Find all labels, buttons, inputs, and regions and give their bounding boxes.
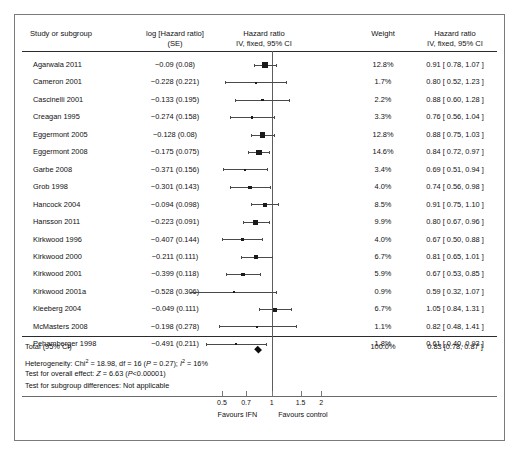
- column-header-study: Study or subgroup: [30, 29, 92, 39]
- favours-left-label: Favours IFN: [218, 410, 258, 419]
- study-weight: 12.8%: [346, 126, 420, 144]
- ci-lower-cap: [206, 343, 207, 346]
- study-weight: 0.9%: [346, 283, 420, 301]
- effect-estimate-marker: [248, 186, 251, 189]
- ci-upper-cap: [260, 273, 261, 276]
- total-weight: 100.0%: [346, 341, 420, 352]
- ci-upper-cap: [274, 134, 275, 137]
- ci-lower-cap: [251, 203, 252, 206]
- summary-diamond: [254, 346, 262, 354]
- study-weight: 8.5%: [346, 196, 420, 214]
- hazard-ratio: 0.82 [ 0.48, 1.41 ]: [410, 318, 500, 336]
- ci-lower-cap: [230, 186, 231, 189]
- study-name: Creagan 1995: [33, 108, 80, 126]
- study-name: Hansson 2011: [33, 213, 80, 231]
- study-name: Grob 1998: [33, 178, 68, 196]
- study-weight: 1.1%: [346, 318, 420, 336]
- effect-estimate-marker: [256, 326, 258, 328]
- study-weight: 5.9%: [346, 265, 420, 283]
- effect-estimate-marker: [233, 291, 235, 293]
- ci-upper-cap: [266, 343, 267, 346]
- study-weight: 1.7%: [346, 73, 420, 91]
- ci-lower-cap: [241, 256, 242, 259]
- effect-estimate-marker: [251, 116, 254, 119]
- x-axis-line: [22, 396, 497, 397]
- ci-lower-cap: [222, 238, 223, 241]
- hazard-ratio: 0.59 [ 0.32, 1.07 ]: [410, 283, 500, 301]
- ci-upper-cap: [276, 291, 277, 294]
- study-weight: 3.4%: [346, 161, 420, 179]
- ci-upper-cap: [272, 256, 273, 259]
- effect-estimate-marker: [261, 99, 263, 101]
- effect-estimate-marker: [256, 150, 262, 156]
- ci-upper-cap: [291, 308, 292, 311]
- ci-upper-cap: [289, 99, 290, 102]
- hazard-ratio: 0.88 [ 0.75, 1.03 ]: [410, 126, 500, 144]
- hazard-ratio: 0.76 [ 0.56, 1.04 ]: [410, 108, 500, 126]
- total-label: Total (95% CI): [25, 341, 72, 352]
- ci-lower-cap: [235, 99, 236, 102]
- ci-upper-cap: [276, 64, 277, 67]
- axis-tick-label: 0.5: [217, 399, 227, 406]
- ci-lower-cap: [251, 134, 252, 137]
- study-name: Garbe 2008: [33, 161, 72, 179]
- hazard-ratio: 0.80 [ 0.67, 0.96 ]: [410, 213, 500, 231]
- ci-upper-cap: [278, 203, 279, 206]
- study-weight: 6.7%: [346, 300, 420, 318]
- ci-upper-cap: [274, 116, 275, 119]
- effect-estimate-marker: [255, 82, 257, 84]
- column-header-hazard-ratio-line2: IV, fixed, 95% CI: [410, 39, 500, 49]
- ci-lower-cap: [248, 151, 249, 154]
- hazard-ratio: 1.05 [ 0.84, 1.31 ]: [410, 300, 500, 318]
- column-header-plot-line1: Hazard ratio: [196, 29, 332, 39]
- ci-lower-cap: [219, 325, 220, 328]
- study-weight: 12.8%: [346, 56, 420, 74]
- study-name: Eggermont 2005: [33, 126, 88, 144]
- hazard-ratio: 0.67 [ 0.50, 0.88 ]: [410, 231, 500, 249]
- ci-lower-cap: [223, 168, 224, 171]
- ci-upper-cap: [262, 238, 263, 241]
- statistic-line: Test for overall effect: Z = 6.63 (P<0.0…: [25, 368, 166, 379]
- ci-upper-cap: [296, 325, 297, 328]
- study-weight: 9.9%: [346, 213, 420, 231]
- axis-tick: [321, 391, 322, 396]
- effect-estimate-marker: [235, 343, 237, 345]
- study-weight: 4.0%: [346, 231, 420, 249]
- null-effect-line: [272, 51, 273, 396]
- hazard-ratio: 0.84 [ 0.72, 0.97 ]: [410, 143, 500, 161]
- ci-upper-cap: [269, 151, 270, 154]
- effect-estimate-marker: [273, 308, 277, 312]
- axis-tick: [222, 391, 223, 396]
- column-header-study-label: Study or subgroup: [30, 29, 92, 38]
- axis-tick-label: 1.5: [296, 399, 306, 406]
- ci-upper-cap: [286, 81, 287, 84]
- study-name: Kirkwood 1996: [33, 231, 82, 249]
- hazard-ratio: 0.67 [ 0.53, 0.85 ]: [410, 265, 500, 283]
- study-weight: 2.2%: [346, 91, 420, 109]
- axis-tick-label: 2: [319, 399, 323, 406]
- study-weight: 6.7%: [346, 248, 420, 266]
- study-weight: 14.6%: [346, 143, 420, 161]
- forest-plot-figure: Study or subgroup log [Hazard ratio] (SE…: [0, 0, 519, 455]
- ci-lower-cap: [225, 81, 226, 84]
- study-name: McMasters 2008: [33, 318, 88, 336]
- column-header-hazard-ratio: Hazard ratio IV, fixed, 95% CI: [410, 29, 500, 48]
- hazard-ratio: 0.80 [ 0.52, 1.23 ]: [410, 73, 500, 91]
- hazard-ratio: 0.88 [ 0.60, 1.28 ]: [410, 91, 500, 109]
- ci-upper-cap: [270, 186, 271, 189]
- study-name: Hancock 2004: [33, 196, 80, 214]
- plot-area: [190, 51, 340, 396]
- study-name: Kirkwood 2001: [33, 265, 82, 283]
- axis-tick: [272, 391, 273, 396]
- effect-estimate-marker: [241, 273, 245, 277]
- hazard-ratio: 0.91 [ 0.78, 1.07 ]: [410, 56, 500, 74]
- favours-right-label: Favours control: [278, 410, 328, 419]
- effect-estimate-marker: [254, 255, 258, 259]
- hazard-ratio: 0.74 [ 0.56, 0.98 ]: [410, 178, 500, 196]
- column-header-weight-label: Weight: [346, 29, 420, 39]
- statistic-line: Test for subgroup differences: Not appli…: [25, 380, 169, 391]
- study-name: Cascinelli 2001: [33, 91, 83, 109]
- total-hazard-ratio: 0.83 [0.78, 0.87 ]: [410, 341, 500, 352]
- column-header-weight: Weight: [346, 29, 420, 39]
- study-weight: 3.3%: [346, 108, 420, 126]
